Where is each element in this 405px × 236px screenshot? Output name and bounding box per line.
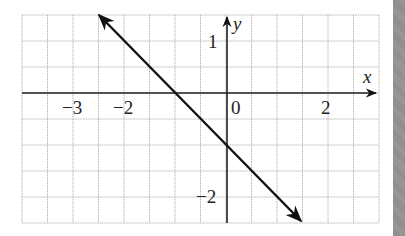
x-tick-label: 0 bbox=[231, 97, 241, 118]
x-axis-label: x bbox=[362, 66, 372, 87]
y-tick-label: 1 bbox=[208, 31, 218, 52]
page-edge-strip bbox=[393, 0, 405, 236]
x-tick-label: 2 bbox=[321, 97, 331, 118]
x-tick-label: −2 bbox=[113, 97, 133, 118]
y-axis-label: y bbox=[231, 13, 242, 34]
x-tick-label: −3 bbox=[62, 97, 82, 118]
y-tick-label: −2 bbox=[196, 186, 216, 207]
coordinate-plane: x y −3 −2 0 2 1 −2 bbox=[0, 0, 405, 236]
